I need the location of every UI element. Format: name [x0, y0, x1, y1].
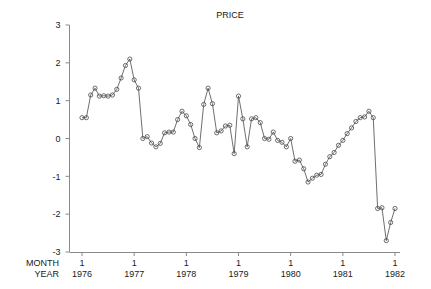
chart-figure: PRICE 3210-1-2-3 1111111 197619771978197… [0, 0, 431, 289]
axis-row-label-month: MONTH [26, 258, 59, 268]
x-tick-year-label: 1979 [228, 269, 248, 279]
x-tick-year-label: 1980 [281, 269, 301, 279]
chart-background [0, 0, 431, 289]
chart-title: PRICE [216, 10, 244, 20]
x-tick-year-label: 1982 [385, 269, 405, 279]
price-line-chart: PRICE 3210-1-2-3 1111111 197619771978197… [0, 0, 431, 289]
y-tick-label: 2 [55, 58, 60, 68]
x-tick-year-label: 1981 [333, 269, 353, 279]
x-tick-year-label: 1977 [124, 269, 144, 279]
y-tick-label: -3 [52, 247, 60, 257]
x-tick-month-label: 1 [184, 258, 189, 268]
y-tick-label: 0 [55, 134, 60, 144]
x-tick-year-label: 1976 [72, 269, 92, 279]
y-tick-label: -2 [52, 209, 60, 219]
x-tick-month-label: 1 [340, 258, 345, 268]
x-tick-month-label: 1 [132, 258, 137, 268]
x-tick-month-label: 1 [288, 258, 293, 268]
y-tick-label: -1 [52, 172, 60, 182]
x-tick-month-label: 1 [392, 258, 397, 268]
x-tick-year-label: 1978 [176, 269, 196, 279]
x-tick-month-label: 1 [236, 258, 241, 268]
x-tick-month-label: 1 [79, 258, 84, 268]
axis-row-label-year: YEAR [34, 269, 59, 279]
y-tick-label: 3 [55, 20, 60, 30]
y-tick-label: 1 [55, 96, 60, 106]
